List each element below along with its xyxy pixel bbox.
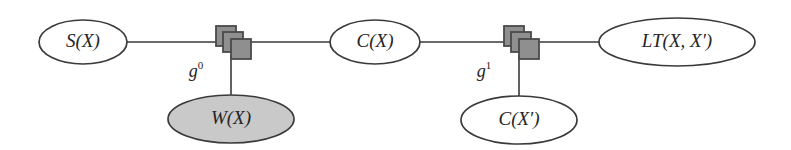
factor-node-label: g1 xyxy=(477,59,492,82)
factor-node-label: g0 xyxy=(189,59,204,82)
variable-node-label: C(X′) xyxy=(498,108,539,130)
variable-node: C(X′) xyxy=(461,96,577,144)
factor-graph-canvas: S(X)C(X)LT(X, X′)W(X)C(X′) g0g1 xyxy=(0,0,791,150)
variable-node: C(X) xyxy=(330,20,420,64)
variable-node-label: LT(X, X′) xyxy=(641,30,712,52)
variable-node-label: S(X) xyxy=(66,30,100,52)
variable-node: S(X) xyxy=(39,20,127,64)
variable-node-layer: S(X)C(X)LT(X, X′)W(X)C(X′) xyxy=(39,18,755,144)
factor-node: g0 xyxy=(189,26,251,81)
factor-node-square xyxy=(519,39,539,59)
variable-node-label: W(X) xyxy=(211,107,251,129)
variable-node: LT(X, X′) xyxy=(599,18,755,66)
variable-node: W(X) xyxy=(168,95,294,143)
factor-node: g1 xyxy=(477,26,539,81)
factor-label-base: g xyxy=(477,61,486,81)
factor-label-superscript: 1 xyxy=(486,59,492,71)
factor-node-square xyxy=(231,39,251,59)
variable-node-label: C(X) xyxy=(357,30,394,52)
factor-label-superscript: 0 xyxy=(198,59,204,71)
factor-label-base: g xyxy=(189,61,198,81)
factor-graph-figure: S(X)C(X)LT(X, X′)W(X)C(X′) g0g1 xyxy=(0,0,791,150)
